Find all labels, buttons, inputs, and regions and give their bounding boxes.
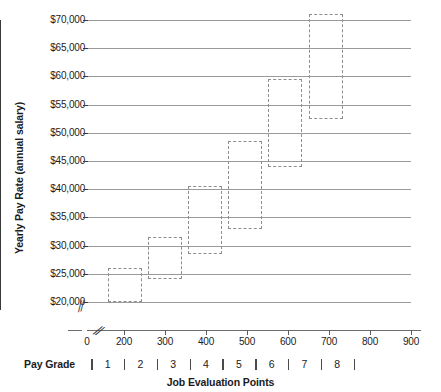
y-axis-tick-labels: $70,000$65,000$60,000$55,000$50,000$45,0… — [27, 0, 85, 392]
y-tick-mark — [83, 20, 88, 21]
pay-range-box-grade-2 — [148, 237, 182, 279]
y-tick-label: $50,000 — [27, 128, 85, 138]
pay-grade-separator — [354, 359, 355, 370]
y-tick-label: $70,000 — [27, 15, 85, 25]
x-tick-label: 900 — [391, 336, 431, 347]
gridline — [87, 302, 411, 303]
y-tick-label: $65,000 — [27, 43, 85, 53]
x-tick-label: 700 — [309, 336, 349, 347]
pay-grade-1: 1 — [96, 358, 120, 370]
gridline — [87, 20, 411, 21]
y-tick-mark — [83, 302, 88, 303]
y-tick-label: $55,000 — [27, 100, 85, 110]
plot-area — [87, 20, 411, 302]
pay-grade-axis-label: Pay Grade — [24, 358, 75, 370]
pay-grade-5: 5 — [227, 358, 251, 370]
x-tick-label: 0 — [67, 336, 107, 347]
pay-range-box-grade-6 — [309, 14, 343, 118]
y-tick-mark — [83, 274, 88, 275]
pay-grade-2: 2 — [128, 358, 152, 370]
pay-structure-chart: Yearly Pay Rate (annual salary) $70,000$… — [0, 0, 441, 392]
y-tick-label: $30,000 — [27, 241, 85, 251]
x-tick-mark — [165, 330, 166, 335]
y-tick-mark — [83, 246, 88, 247]
y-tick-mark — [83, 76, 88, 77]
x-tick-mark — [329, 330, 330, 335]
x-axis-title: Job Evaluation Points — [0, 376, 441, 388]
pay-grade-separator — [288, 359, 289, 370]
pay-grade-4: 4 — [194, 358, 218, 370]
x-tick-mark — [370, 330, 371, 335]
y-tick-mark — [83, 217, 88, 218]
pay-grade-3: 3 — [161, 358, 185, 370]
gridline — [87, 76, 411, 77]
gridline — [87, 48, 411, 49]
y-tick-mark — [83, 161, 88, 162]
pay-range-box-grade-1 — [108, 268, 142, 302]
pay-range-box-grade-5 — [268, 79, 302, 166]
gridline — [87, 105, 411, 106]
pay-grade-8: 8 — [325, 358, 349, 370]
y-tick-mark — [83, 105, 88, 106]
y-tick-mark — [83, 133, 88, 134]
x-axis-origin-stub — [68, 330, 82, 331]
pay-grade-6: 6 — [260, 358, 284, 370]
x-tick-mark — [288, 330, 289, 335]
pay-grade-separator — [91, 359, 92, 370]
y-axis-line — [0, 20, 1, 310]
y-tick-label: $40,000 — [27, 184, 85, 194]
pay-range-box-grade-3 — [188, 186, 222, 254]
x-tick-label: 300 — [145, 336, 185, 347]
y-tick-mark — [83, 189, 88, 190]
pay-grade-separator — [124, 359, 125, 370]
y-tick-mark — [83, 48, 88, 49]
y-tick-label: $45,000 — [27, 156, 85, 166]
pay-grade-separator — [222, 359, 223, 370]
y-tick-label: $60,000 — [27, 71, 85, 81]
pay-grade-axis: Pay Grade 12345678 — [0, 358, 441, 374]
y-tick-label: $25,000 — [27, 269, 85, 279]
y-axis-title: Yearly Pay Rate (annual salary) — [13, 63, 25, 293]
gridline — [87, 246, 411, 247]
x-tick-mark — [124, 330, 125, 335]
x-tick-label: 200 — [104, 336, 144, 347]
pay-range-box-grade-4 — [228, 141, 262, 228]
x-tick-label: 500 — [227, 336, 267, 347]
x-tick-mark — [247, 330, 248, 335]
pay-grade-separator — [157, 359, 158, 370]
x-tick-label: 400 — [186, 336, 226, 347]
x-tick-mark — [206, 330, 207, 335]
y-tick-label: $35,000 — [27, 212, 85, 222]
pay-grade-separator — [190, 359, 191, 370]
x-axis-tick-labels: 0200300400500600700800900 — [0, 336, 441, 350]
x-tick-label: 800 — [350, 336, 390, 347]
pay-grade-separator — [255, 359, 256, 370]
x-tick-mark — [411, 330, 412, 335]
pay-grade-7: 7 — [292, 358, 316, 370]
pay-grade-separator — [321, 359, 322, 370]
gridline — [87, 133, 411, 134]
x-tick-label: 600 — [268, 336, 308, 347]
